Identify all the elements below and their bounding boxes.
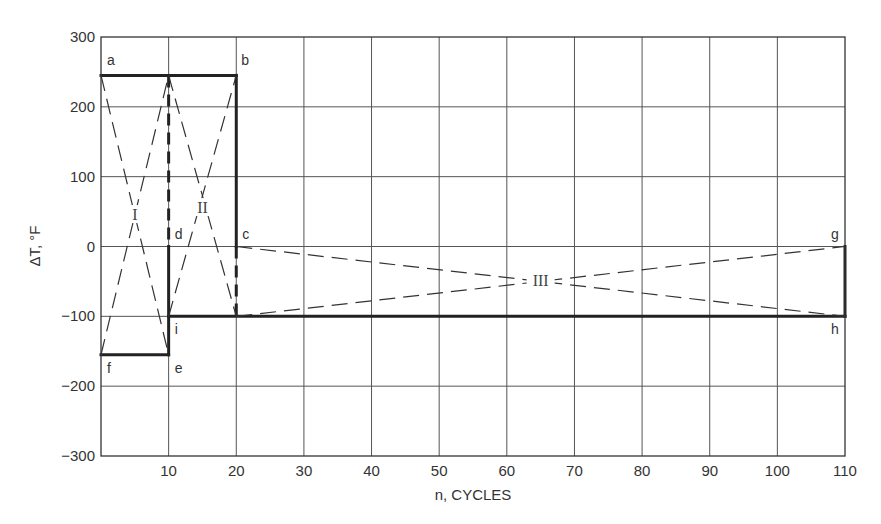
point-label-d: d xyxy=(175,226,183,242)
point-label-h: h xyxy=(831,321,839,337)
x-tick-label: 60 xyxy=(498,462,515,479)
x-tick-label: 70 xyxy=(566,462,583,479)
y-tick-label: 100 xyxy=(70,168,95,185)
point-label-e: e xyxy=(175,360,183,376)
x-tick-label: 50 xyxy=(431,462,448,479)
annotation-II: II xyxy=(197,199,208,216)
point-labels: abcdefghi xyxy=(107,52,839,375)
point-label-f: f xyxy=(107,360,111,376)
x-tick-label: 10 xyxy=(160,462,177,479)
x-tick-label: 90 xyxy=(701,462,718,479)
y-tick-label: 0 xyxy=(87,238,95,255)
y-tick-label: −200 xyxy=(61,377,95,394)
y-axis-ticks: 3002001000−100−200−300 xyxy=(61,28,95,464)
point-label-i: i xyxy=(175,321,178,337)
point-label-c: c xyxy=(242,226,249,242)
x-tick-label: 80 xyxy=(634,462,651,479)
x-tick-label: 40 xyxy=(363,462,380,479)
x-tick-label: 110 xyxy=(833,462,857,479)
y-axis-label: ΔT, °F xyxy=(26,225,43,266)
grid-lines xyxy=(101,37,845,456)
y-tick-label: 200 xyxy=(70,98,95,115)
point-label-g: g xyxy=(831,226,839,242)
y-tick-label: −300 xyxy=(61,447,95,464)
x-axis-label: n, CYCLES xyxy=(435,486,512,503)
y-tick-label: −100 xyxy=(61,307,95,324)
annotation-III: III xyxy=(533,272,549,289)
x-tick-label: 20 xyxy=(228,462,245,479)
x-axis-ticks: 102030405060708090100110 xyxy=(160,462,857,479)
x-tick-label: 100 xyxy=(765,462,790,479)
point-label-b: b xyxy=(241,52,249,68)
chart: 3002001000−100−200−300 10203040506070809… xyxy=(0,0,881,524)
x-tick-label: 30 xyxy=(296,462,313,479)
y-tick-label: 300 xyxy=(70,28,95,45)
point-label-a: a xyxy=(107,52,115,68)
annotation-I: I xyxy=(132,206,137,223)
